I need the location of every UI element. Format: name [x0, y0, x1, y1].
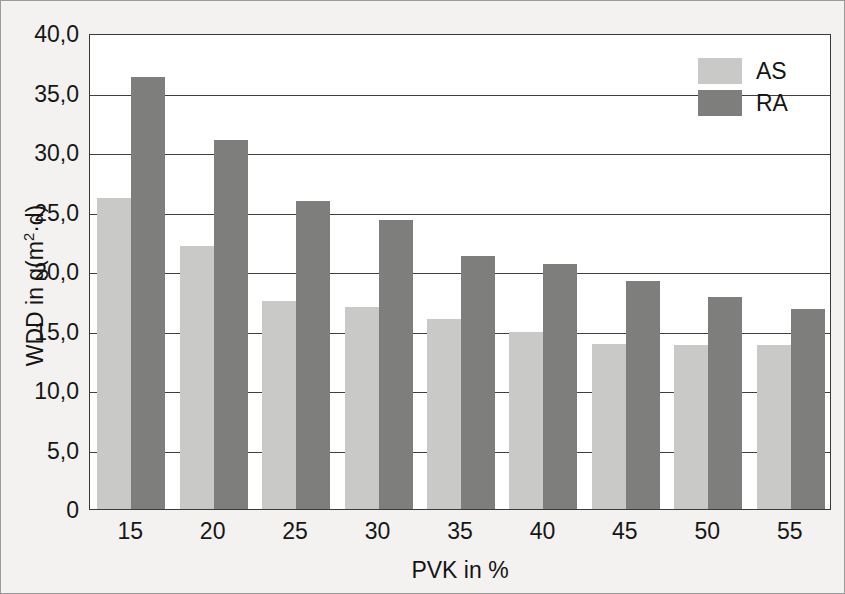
bar-ra-35: [461, 256, 495, 509]
x-axis-tick-label: 25: [255, 518, 335, 545]
bar-as-35: [427, 319, 461, 509]
bar-ra-15: [131, 77, 165, 509]
x-axis-tick-label: 20: [173, 518, 253, 545]
y-axis-title-exponent: 2: [21, 233, 37, 241]
bar-ra-55: [791, 309, 825, 509]
y-axis-title: WDD in g(m2·d): [22, 66, 49, 506]
y-axis-title-pre: WDD in g(m: [22, 241, 48, 366]
bar-ra-50: [708, 297, 742, 509]
x-axis-tick-label: 55: [750, 518, 830, 545]
x-axis-tick-label: 30: [338, 518, 418, 545]
legend-swatch-as: [698, 58, 742, 84]
legend-item-as: AS: [698, 56, 808, 86]
legend-label-as: AS: [756, 58, 787, 85]
y-axis-title-post: ·d): [22, 205, 48, 233]
bar-ra-25: [296, 201, 330, 509]
bar-as-30: [345, 307, 379, 509]
y-axis-tick-label: 40,0: [1, 21, 79, 48]
legend-item-ra: RA: [698, 88, 808, 118]
legend-label-ra: RA: [756, 90, 788, 117]
bar-as-50: [674, 345, 708, 509]
bar-as-20: [180, 246, 214, 509]
x-axis-title: PVK in %: [89, 557, 831, 584]
bar-as-25: [262, 301, 296, 509]
bar-ra-45: [626, 281, 660, 509]
bar-as-45: [592, 344, 626, 509]
gridline: [90, 154, 830, 155]
x-axis-tick-label: 45: [585, 518, 665, 545]
x-axis-tick-label: 35: [420, 518, 500, 545]
x-axis: 152025303540455055: [89, 518, 831, 552]
gridline: [90, 214, 830, 215]
bar-ra-40: [543, 264, 577, 509]
legend-swatch-ra: [698, 90, 742, 116]
legend: ASRA: [698, 56, 808, 120]
chart-figure: 05,010,015,020,025,030,035,040,0 WDD in …: [0, 0, 845, 594]
x-axis-tick-label: 15: [90, 518, 170, 545]
bar-ra-30: [379, 220, 413, 509]
x-axis-tick-label: 40: [502, 518, 582, 545]
x-axis-tick-label: 50: [667, 518, 747, 545]
bar-as-40: [509, 332, 543, 509]
bar-as-15: [97, 198, 131, 509]
bar-ra-20: [214, 140, 248, 509]
bar-as-55: [757, 345, 791, 509]
